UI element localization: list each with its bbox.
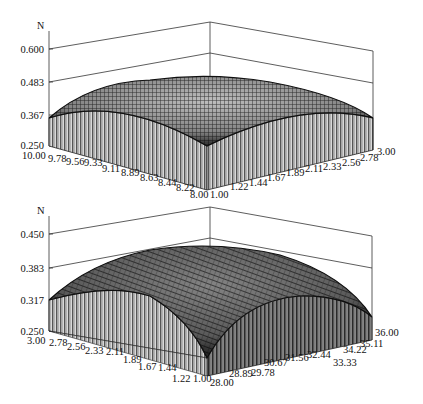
x-tick: 1.00 (193, 373, 211, 384)
x-tick: 8.89 (121, 167, 139, 178)
y-tick: 32.44 (307, 349, 331, 360)
y-tick: 28.89 (229, 368, 253, 379)
y-tick: 2.33 (323, 161, 341, 172)
top-z-axis: N 0.600 0.483 0.367 0.250 (20, 20, 44, 151)
x-tick: 3.00 (27, 335, 45, 346)
y-tick: 36.00 (375, 327, 399, 338)
y-tick: 35.11 (360, 338, 383, 349)
y-tick: 1.00 (210, 189, 228, 200)
z-tick: 0.383 (20, 263, 44, 274)
figure: N 0.600 0.483 0.367 0.250 10.00 9.78 9.5… (0, 0, 423, 404)
x-tick: 9.56 (66, 156, 84, 167)
y-tick: 1.89 (286, 167, 304, 178)
x-tick: 2.33 (85, 345, 103, 356)
z-tick: 0.600 (20, 44, 44, 55)
y-tick: 31.56 (285, 352, 309, 363)
x-tick: 8.00 (190, 189, 208, 200)
y-tick: 1.22 (230, 181, 248, 192)
y-tick: 29.78 (251, 367, 275, 378)
y-tick: 1.44 (249, 177, 268, 188)
z-tick: 0.450 (20, 229, 44, 240)
y-tick: 2.11 (305, 163, 323, 174)
x-tick: 10.00 (22, 150, 46, 161)
x-tick: 8.44 (158, 177, 177, 188)
x-tick: 2.56 (67, 341, 85, 352)
bottom-z-axis: N 0.450 0.383 0.317 0.250 (20, 205, 45, 337)
x-tick: 2.78 (49, 337, 67, 348)
x-tick: 9.78 (48, 153, 66, 164)
x-tick: 1.67 (138, 361, 156, 372)
top-z-label: N (37, 20, 44, 31)
bottom-z-label: N (37, 205, 45, 216)
x-tick: 9.11 (102, 163, 120, 174)
y-tick: 1.67 (267, 172, 285, 183)
y-tick: 2.56 (342, 157, 360, 168)
z-tick: 0.317 (20, 295, 44, 306)
x-tick: 9.33 (84, 157, 102, 168)
y-tick: 3.00 (377, 146, 395, 157)
y-tick: 2.78 (360, 152, 378, 163)
x-tick: 2.11 (106, 346, 124, 357)
z-tick: 0.483 (20, 77, 44, 88)
x-tick: 1.22 (172, 373, 190, 384)
bottom-surface-plot: N 0.450 0.383 0.317 0.250 3.00 2.78 2.56… (20, 205, 398, 388)
x-tick: 1.44 (158, 362, 177, 373)
y-tick: 33.33 (333, 357, 357, 368)
z-tick: 0.367 (20, 110, 44, 121)
x-tick: 8.63 (140, 172, 158, 183)
top-surface-plot: N 0.600 0.483 0.367 0.250 10.00 9.78 9.5… (20, 20, 395, 200)
